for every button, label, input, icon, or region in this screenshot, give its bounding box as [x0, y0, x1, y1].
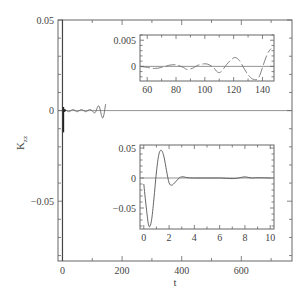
- x-tick-label: 60: [142, 84, 152, 95]
- plot-frame: [140, 145, 274, 229]
- svg-text:Kzz: Kzz: [14, 136, 29, 150]
- x-tick-label: 80: [171, 84, 181, 95]
- y-tick-label: −0.05: [31, 196, 54, 207]
- x-tick-label: 120: [226, 84, 241, 95]
- x-tick-label: 0: [60, 265, 65, 276]
- x-tick-label: 4: [192, 232, 197, 243]
- y-tick-label: 0.05: [119, 143, 137, 154]
- x-tick-label: 600: [234, 265, 249, 276]
- plot-frame: [140, 35, 274, 81]
- y-tick-label: 0.005: [114, 35, 137, 46]
- y-tick-label: 0: [131, 61, 136, 72]
- y-tick-label: 0: [131, 173, 136, 184]
- x-tick-label: 200: [115, 265, 130, 276]
- x-tick-label: 400: [174, 265, 189, 276]
- x-tick-label: 2: [167, 232, 172, 243]
- y-tick-label: 0: [49, 105, 54, 116]
- x-tick-label: 0: [141, 232, 146, 243]
- y-tick-label: −0.05: [113, 203, 136, 214]
- figure: 02004006000.050−0.05 60801001201400.0050…: [0, 0, 308, 296]
- x-tick-label: 8: [242, 232, 247, 243]
- x-axis-label: t: [173, 276, 176, 288]
- x-tick-label: 100: [197, 84, 212, 95]
- x-tick-label: 10: [265, 232, 275, 243]
- y-axis-label: Kzz: [14, 136, 29, 150]
- y-tick-label: 0.05: [37, 15, 55, 26]
- x-tick-label: 6: [217, 232, 222, 243]
- x-tick-label: 140: [255, 84, 270, 95]
